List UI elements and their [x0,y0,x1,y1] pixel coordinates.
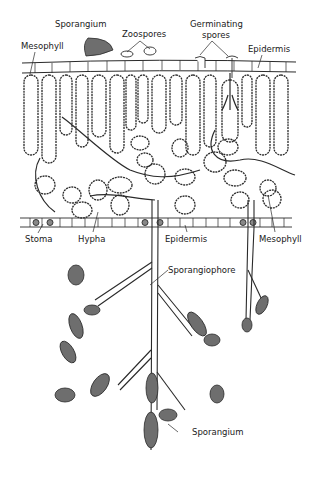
label-zoospores: Zoospores [122,29,166,39]
upper-epidermis [22,60,296,73]
zoospores [121,47,238,78]
palisade-mesophyll [24,75,288,163]
label-mesophyll-top: Mesophyll [21,41,64,51]
lower-epidermis [20,218,292,227]
label-sporangium-top: Sporangium [55,19,107,29]
label-sporangiophore: Sporangiophore [168,265,236,275]
label-mesophyll-bottom: Mesophyll [259,234,302,244]
label-hypha: Hypha [78,234,105,244]
label-sporangium-bottom: Sporangium [192,427,244,437]
label-stoma: Stoma [25,234,52,244]
label-epidermis-bottom: Epidermis [165,234,207,244]
label-germinating-spores-line2: spores [202,30,230,40]
label-epidermis-top: Epidermis [248,44,290,54]
label-germinating-spores-line1: Germinating [190,19,243,29]
